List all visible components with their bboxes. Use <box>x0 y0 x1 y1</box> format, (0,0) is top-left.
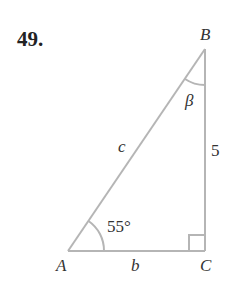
triangle-edges <box>68 49 205 251</box>
angle-label-A: 55° <box>107 217 131 236</box>
side-label-b: b <box>131 256 140 275</box>
side-c <box>68 49 205 251</box>
vertex-label-C: C <box>200 256 212 275</box>
angle-arc-B <box>185 79 205 85</box>
side-label-5: 5 <box>211 141 220 160</box>
side-label-c: c <box>118 137 126 156</box>
angle-label-beta: β <box>184 91 194 110</box>
right-angle-marker <box>189 235 205 251</box>
right-triangle-diagram: B A C c b 5 55° β <box>0 0 239 292</box>
angle-arc-A <box>89 221 105 251</box>
vertex-label-B: B <box>200 25 211 44</box>
vertex-label-A: A <box>55 256 67 275</box>
